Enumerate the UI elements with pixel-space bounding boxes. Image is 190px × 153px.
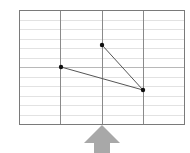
up-arrow-icon — [84, 125, 120, 153]
point-p3 — [141, 88, 145, 92]
point-p1 — [59, 65, 63, 69]
grid-diagram — [0, 0, 190, 153]
minor-gridlines — [19, 21, 184, 116]
point-p2 — [100, 43, 104, 47]
coordinate-grid — [0, 0, 190, 153]
